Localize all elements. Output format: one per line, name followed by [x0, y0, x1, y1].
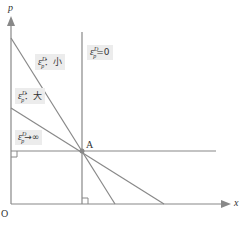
- y-axis-arrow-icon: [7, 16, 15, 26]
- x-axis-label: x: [234, 197, 238, 208]
- label-vertical-elasticity: εDp=0: [87, 45, 113, 60]
- label-moderate-elasticity: εDp：大: [15, 88, 45, 104]
- elasticity-diagram: [0, 0, 243, 227]
- moderate-demand-line: [11, 108, 164, 204]
- point-a-marker: [80, 149, 85, 154]
- point-a-label: A: [86, 139, 93, 150]
- origin-label: O: [1, 208, 8, 219]
- label-horizontal-elasticity: εDp→∞: [15, 130, 42, 145]
- y-axis-label: p: [8, 2, 13, 13]
- right-angle-marker-y: [11, 151, 17, 157]
- label-steep-elasticity: εDp：小: [35, 54, 65, 70]
- right-angle-marker-x: [82, 198, 88, 204]
- x-axis-arrow-icon: [221, 200, 231, 208]
